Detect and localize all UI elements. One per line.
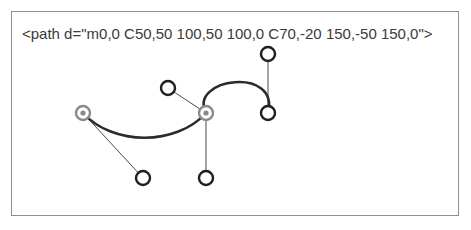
figure-root: <path d="m0,0 C50,50 100,50 100,0 C70,-2… [0,0,471,230]
control-c1-ring[interactable] [136,171,150,185]
control-point-c4[interactable] [261,47,275,61]
control-c2-ring[interactable] [161,81,175,95]
mid-anchor-point[interactable] [199,106,213,120]
bezier-curve-group [83,82,269,138]
bezier-segment-2 [204,82,269,113]
start-anchor-point[interactable] [76,106,90,120]
control-point-c2[interactable] [161,81,175,95]
handle-lines-group [83,54,268,178]
end-anchor-point[interactable] [261,106,275,120]
end-anchor-ring[interactable] [261,106,275,120]
start-anchor-dot [80,110,85,115]
mid-anchor-dot [203,110,208,115]
control-point-c1[interactable] [136,171,150,185]
bezier-segment-1 [83,113,206,138]
control-c4-ring[interactable] [261,47,275,61]
anchor-points-group [76,106,275,120]
control-c3-ring[interactable] [199,171,213,185]
bezier-canvas [0,0,471,230]
control-point-c3[interactable] [199,171,213,185]
